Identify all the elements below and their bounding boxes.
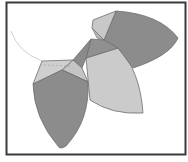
diagram-canvas: [0, 0, 188, 162]
